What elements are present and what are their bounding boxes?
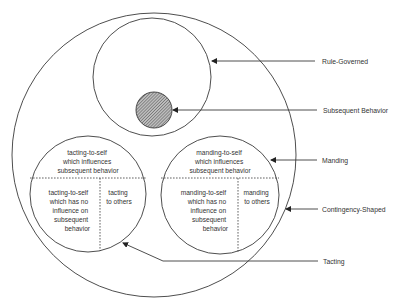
tacting-label: Tacting [323, 258, 345, 266]
tacting-top-text: tacting-to-self which influences subsequ… [57, 149, 119, 175]
contingency-shaped-circle [12, 13, 296, 297]
tacting-bottom-right-text: tacting to others [106, 189, 132, 205]
tacting-circle: tacting-to-self which influences subsequ… [30, 136, 146, 252]
subsequent-behavior-circle [136, 92, 172, 128]
tacting-arrow [123, 243, 318, 261]
subsequent-behavior-label: Subsequent Behavior [323, 107, 389, 115]
verbal-behavior-diagram: tacting-to-self which influences subsequ… [0, 0, 411, 305]
rule-governed-label: Rule-Governed [322, 58, 368, 65]
manding-label: Manding [322, 157, 348, 165]
manding-bottom-right-text: manding to others [243, 189, 270, 205]
manding-bottom-left-text: manding-to-self which has no influence o… [181, 189, 229, 232]
tacting-bottom-left-text: tacting-to-self which has no influence o… [49, 189, 91, 232]
manding-circle: manding-to-self which influences subsequ… [161, 136, 279, 254]
manding-top-text: manding-to-self which influences subsequ… [189, 149, 251, 175]
contingency-shaped-label: Contingency-Shaped [322, 206, 386, 214]
